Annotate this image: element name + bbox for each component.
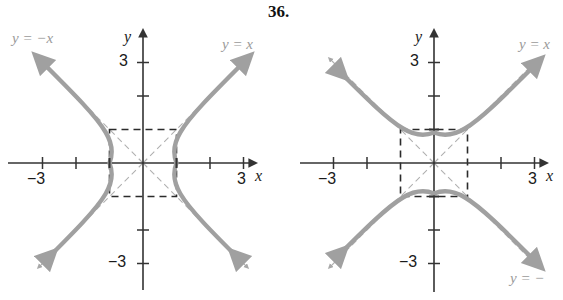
hyperbola-figure-svg [0, 0, 563, 300]
right-y-tick-minus-3: −3 [399, 253, 417, 271]
left-x-tick-minus-3: −3 [27, 170, 45, 188]
right-x-tick-3: 3 [528, 170, 537, 188]
right-x-tick-minus-3: −3 [318, 170, 336, 188]
right-asymptote-label-negative: y = − [510, 270, 544, 287]
exercise-number: 36. [268, 2, 289, 22]
right-asymptote-label-positive: y = x [519, 36, 550, 53]
left-y-axis-label: y [124, 28, 131, 46]
left-asymptote-label-negative: y = −x [12, 30, 53, 47]
left-asymptote-label-positive: y = x [222, 36, 253, 53]
right-graph [300, 36, 541, 292]
right-x-axis-label: x [546, 167, 553, 185]
figure-page: 36. y = −x y = x y x 3 −3 −3 3 y = x y =… [0, 0, 563, 300]
left-x-tick-3: 3 [237, 170, 246, 188]
left-graph [8, 36, 250, 290]
right-y-axis-label: y [415, 28, 422, 46]
left-y-tick-minus-3: −3 [108, 253, 126, 271]
left-x-axis-label: x [255, 167, 262, 185]
right-y-tick-3: 3 [410, 52, 419, 70]
left-y-tick-3: 3 [119, 52, 128, 70]
